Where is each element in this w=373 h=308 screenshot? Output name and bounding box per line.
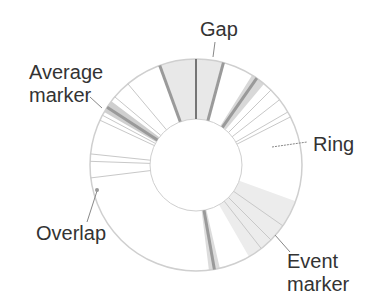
leader-overlap — [87, 191, 97, 222]
thin-marker — [90, 161, 150, 163]
leader-gap — [213, 42, 215, 57]
leader-average-marker — [90, 97, 102, 108]
label-event-marker-2: marker — [287, 273, 349, 295]
thick-marker — [222, 78, 256, 127]
label-average-marker-2: marker — [29, 84, 91, 106]
label-ring: Ring — [313, 133, 354, 155]
thin-marker — [237, 117, 290, 144]
label-average-marker-1: Average — [29, 61, 103, 83]
thin-marker — [91, 171, 151, 178]
label-overlap: Overlap — [36, 222, 106, 244]
label-event-marker-1: Event — [287, 250, 338, 272]
label-gap: Gap — [200, 18, 238, 40]
thin-marker — [236, 112, 288, 142]
thin-marker — [91, 154, 151, 160]
ring-inner-edge — [150, 119, 242, 211]
leader-ring — [272, 142, 307, 147]
overlap-dot — [95, 188, 99, 192]
